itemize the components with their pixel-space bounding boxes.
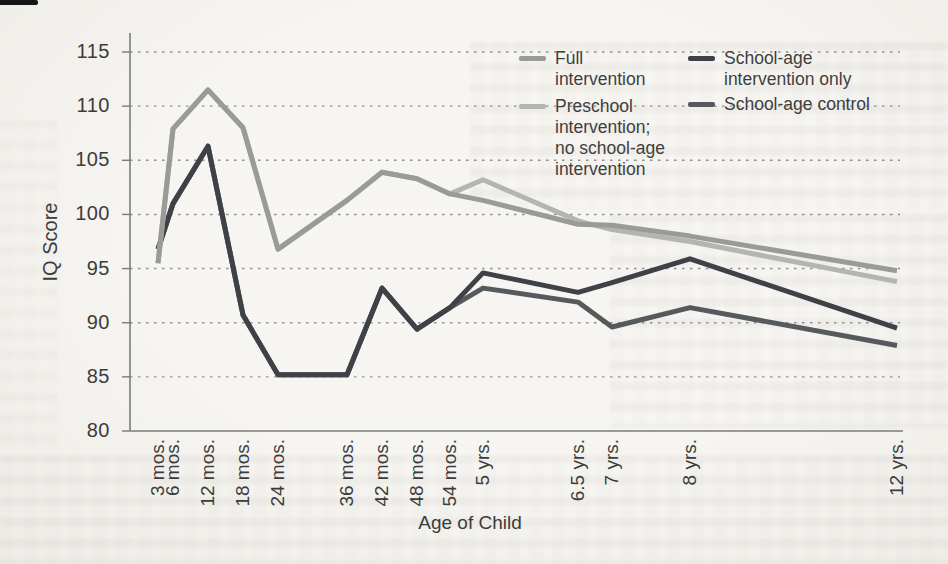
x-tick-label-8: 48 mos. [407, 439, 427, 507]
y-tick-label-100: 100 [54, 202, 110, 225]
y-tick-label-85: 85 [54, 365, 110, 388]
legend-item-preschool-intervention: Preschool intervention; no school-age in… [519, 96, 665, 180]
legend-swatch-school-age-control [688, 102, 715, 107]
legend-label: Preschool intervention; no school-age in… [555, 96, 665, 180]
x-tick-label-2: 6 mos. [163, 439, 183, 496]
x-tick-label-10: 5 yrs. [473, 439, 493, 485]
x-tick-label-4: 18 mos. [233, 439, 253, 507]
y-tick-label-105: 105 [54, 148, 110, 171]
x-tick-label-5: 24 mos. [268, 439, 288, 507]
x-tick-label-9: 54 mos. [440, 439, 460, 507]
legend-label: School-age intervention only [724, 48, 851, 90]
y-tick-label-115: 115 [54, 40, 110, 63]
legend-item-school-age-control: School-age control [688, 94, 870, 115]
legend-label: School-age control [724, 94, 870, 115]
x-tick-label-3: 12 mos. [198, 439, 218, 507]
legend-swatch-full-intervention [519, 56, 546, 61]
x-tick-label-6: 36 mos. [337, 439, 357, 507]
y-tick-label-95: 95 [54, 257, 110, 280]
y-axis-title: IQ Score [39, 203, 62, 282]
iq-score-line-chart: 11511010510095908580 3 mos.6 mos.12 mos.… [0, 0, 948, 564]
y-tick-label-90: 90 [54, 311, 110, 334]
x-tick-label-7: 42 mos. [372, 439, 392, 507]
legend-swatch-school-age-intervention-only [688, 56, 715, 61]
legend-swatch-preschool-intervention [519, 104, 546, 109]
x-tick-label-13: 8 yrs. [680, 439, 700, 485]
scanned-book-page: 11511010510095908580 3 mos.6 mos.12 mos.… [0, 0, 948, 564]
y-tick-label-80: 80 [54, 419, 110, 442]
legend-label: Full intervention [555, 48, 645, 90]
legend-item-full-intervention: Full intervention [519, 48, 645, 90]
x-tick-label-14: 12 yrs. [887, 439, 907, 496]
y-tick-label-110: 110 [54, 94, 110, 117]
x-axis-title: Age of Child [418, 512, 522, 534]
legend-item-school-age-intervention-only: School-age intervention only [688, 48, 851, 90]
x-tick-label-11: 6.5 yrs. [568, 439, 588, 501]
x-tick-label-12: 7 yrs. [602, 439, 622, 485]
